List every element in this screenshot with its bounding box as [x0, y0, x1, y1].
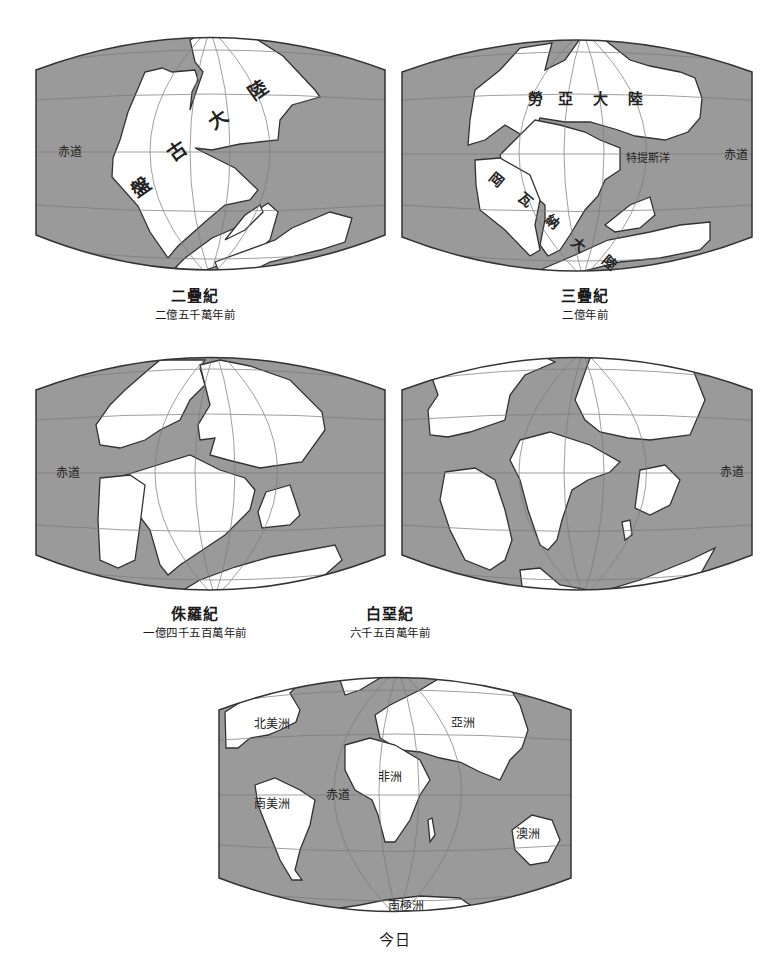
- period-title: 今日: [5, 928, 780, 949]
- map-label: 南美洲: [254, 796, 290, 811]
- map-label: 赤道: [326, 788, 350, 802]
- map-label: 南極洲: [388, 898, 424, 913]
- map-panel-today: 北美洲亞洲非洲赤道南美洲澳洲南極洲 今日: [0, 0, 780, 966]
- map-label: 非洲: [378, 770, 402, 784]
- map-label: 澳洲: [516, 827, 540, 841]
- map-today: 北美洲亞洲非洲赤道南美洲澳洲南極洲: [0, 0, 780, 930]
- map-label: 北美洲: [254, 717, 290, 731]
- map-label: 亞洲: [451, 716, 475, 730]
